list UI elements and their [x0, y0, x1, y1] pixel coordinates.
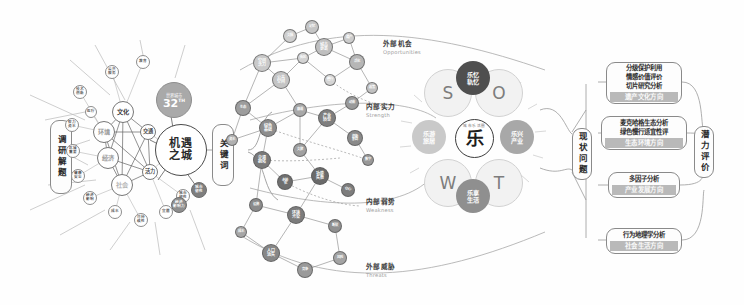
keyword-node-label: 绿色基础: [264, 124, 272, 132]
swot-quadrant-label-en: Threats: [366, 272, 396, 278]
potential-label-text: 潜力评价: [699, 130, 710, 174]
badge-rank-number: 32: [163, 97, 178, 110]
keyword-node-label: 政策: [369, 86, 375, 89]
keyword-node-label: 成本: [238, 230, 244, 233]
method-highlight: 遗产文化方向: [610, 92, 678, 102]
keyword-node: 功能失衡: [311, 167, 329, 185]
keyword-node-label: 记忆: [309, 25, 315, 28]
dimension-node: 环境: [93, 121, 115, 143]
dimension-node-label: 活力: [145, 169, 155, 174]
swot-quadrant-label-cn: 内部实力: [366, 101, 396, 111]
keyword-node: 文旅: [293, 143, 307, 157]
method-box[interactable]: 行为地理学分析社会生活方向: [606, 228, 682, 254]
keyword-node: 慢行: [324, 74, 336, 86]
keyword-node: 风险: [333, 251, 347, 265]
keyword-node: 街区: [297, 52, 309, 64]
indicator-node-label: 公共服务: [108, 68, 116, 76]
keyword-node-label: 老龄化: [282, 179, 288, 186]
keyword-node-label: 遗产: [346, 36, 352, 39]
keyword-node-label: 文旅: [297, 148, 303, 151]
keyword-node-label: 数字: [365, 158, 371, 161]
hub-circle-opportunity-city: 机遇之城: [155, 124, 207, 176]
indicator-node: 技术创新: [73, 85, 87, 99]
swot-theme-label: 乐忆轨忆: [467, 71, 479, 85]
indicator-node-label: 宜居: [162, 210, 170, 214]
method-box[interactable]: 麦克哈格生态分析绿色慢行适宜性评生态环境方向: [601, 116, 687, 150]
indicator-node-label: 可持续性: [137, 216, 145, 224]
keyword-node-label: 生态: [240, 106, 246, 109]
dimension-node: 文化: [112, 101, 134, 123]
dimension-node-label: 交通: [143, 129, 153, 134]
keyword-node-label: 断裂: [332, 224, 338, 227]
swot-quadrant-label-en: Weakness: [366, 207, 396, 213]
indicator-node-label: 智力资本: [68, 121, 76, 129]
keyword-node: 交通拥堵: [253, 151, 271, 169]
swot-quadrant-label-en: Opportunities: [383, 49, 421, 55]
keyword-node-label: 风险: [337, 256, 343, 259]
diagram-canvas: 调研解题 文化环境经济社会交通活力 公共服务教育技术创新医疗智力资本区域重要健康…: [0, 0, 744, 305]
indicator-node-dark-label: 城市韧性: [195, 186, 203, 194]
indicator-node: 区域重要: [66, 144, 80, 158]
swot-quadrant-label-en: Strength: [366, 112, 396, 118]
method-line: 切片研究分析: [626, 82, 662, 90]
keyword-node: 生态: [235, 100, 251, 116]
keyword-node-label: 文脉: [287, 34, 293, 37]
stage-label-survey-text: 调研解题: [56, 135, 67, 179]
indicator-node: 医疗: [85, 106, 97, 118]
swot-quadrant-label: 内部实力Strength: [366, 101, 396, 118]
dimension-node-label: 环境: [98, 129, 110, 136]
keyword-node-label: 创新集群: [352, 135, 358, 142]
dimension-node-label: 经济: [102, 155, 114, 162]
method-box[interactable]: 分级保护利用情感价值评价切片研究分析遗产文化方向: [606, 62, 682, 104]
keyword-node: 空间活力: [253, 54, 271, 72]
swot-letter-text: W: [440, 173, 457, 193]
swot-quadrant-label: 外部机会Opportunities: [383, 38, 421, 55]
indicator-node-label: 健康安全: [74, 172, 82, 180]
keyword-node: 公共空间: [272, 71, 290, 89]
method-box[interactable]: 多因子分析产业发展方向: [608, 172, 680, 198]
swot-theme-label: 乐享生活: [467, 189, 479, 203]
keyword-node-label: 交通拥堵: [258, 156, 266, 164]
swot-quadrant-label: 外部威胁Threats: [366, 261, 396, 278]
keyword-node: 政策: [366, 82, 378, 94]
keyword-node: 环境污染: [287, 206, 305, 224]
indicator-node: 健康安全: [71, 169, 85, 183]
keyword-node: 产业转型: [318, 109, 336, 127]
dimension-node: 活力: [142, 164, 158, 180]
method-line: 绿色慢行适宜性评: [620, 128, 668, 136]
potential-label: 潜力评价: [694, 126, 714, 178]
swot-letter-text: S: [443, 83, 454, 103]
indicator-node-dark: 城市韧性: [191, 182, 207, 198]
brand-logo-le: 城市乐活圈 乐: [455, 119, 494, 158]
keyword-node: 资本: [226, 134, 238, 146]
keyword-node-label: 城市更新: [320, 43, 328, 51]
keyword-node-label: 环境污染: [292, 211, 300, 219]
keyword-node: 活化: [349, 54, 365, 70]
keyword-node-label: 竞争: [302, 268, 308, 271]
world-city-rank-badge: 世界城市 32TH: [156, 82, 192, 118]
indicator-node: 教育: [136, 55, 150, 69]
keyword-node-label: 空间活力: [258, 59, 266, 67]
method-line: 行为地理学分析: [623, 231, 665, 239]
swot-theme-top: 乐忆轨忆: [456, 61, 490, 95]
keyword-node: 设施: [249, 198, 263, 212]
keyword-node-label: 人口流失: [267, 249, 275, 257]
keyword-node: 文脉: [283, 29, 297, 43]
keyword-node-label: 街区: [300, 56, 306, 59]
hub-circle-label: 机遇之城: [169, 138, 193, 163]
indicator-node: 经济影响: [83, 191, 97, 205]
swot-quadrant-label-cn: 内部弱势: [366, 196, 396, 206]
keyword-node: 断裂: [328, 219, 342, 233]
dimension-node: 社会: [111, 174, 133, 196]
swot-theme-right: 乐兴产业: [500, 120, 534, 154]
indicator-node-label: 区域重要: [69, 147, 77, 155]
keyword-node: 人口流失: [262, 244, 280, 262]
indicator-node: 成本: [108, 205, 122, 219]
keyword-node-label: 动能: [349, 101, 355, 104]
swot-theme-bottom: 乐享生活: [456, 179, 490, 213]
method-highlight: 产业发展方向: [612, 185, 676, 195]
issue-label-text: 现状问题: [577, 132, 588, 176]
dimension-node-label: 社会: [116, 182, 128, 189]
keyword-node-label: 功能失衡: [316, 172, 324, 180]
keyword-node-label: 空心: [345, 188, 351, 191]
